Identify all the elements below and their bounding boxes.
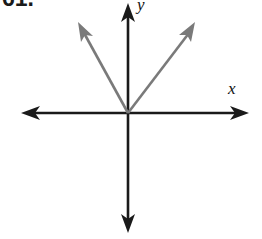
x-axis-label: x	[228, 80, 236, 97]
y-axis-group	[121, 3, 135, 233]
coordinate-plane-figure: 61. y x	[0, 0, 262, 239]
axes-and-rays-svg	[0, 0, 262, 239]
ray-quadrant-one-group	[128, 22, 195, 113]
x-axis-group	[21, 106, 249, 120]
ray-quadrant-one-line	[128, 33, 189, 113]
y-axis-label: y	[137, 0, 145, 13]
ray-quadrant-two-line	[84, 33, 128, 113]
ray-quadrant-one-arrowhead	[179, 22, 195, 42]
ray-quadrant-two-group	[78, 22, 128, 113]
ray-quadrant-two-arrowhead	[78, 22, 93, 42]
